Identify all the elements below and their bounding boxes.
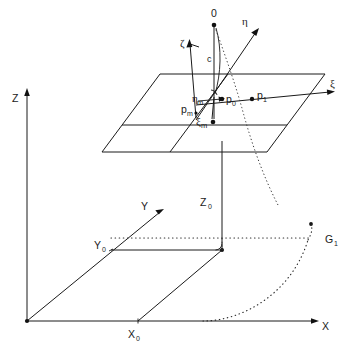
projection-center-dot: [212, 23, 217, 28]
y0-label: Y 0: [94, 239, 106, 253]
svg-text:0: 0: [102, 246, 106, 253]
svg-text:1: 1: [263, 96, 267, 103]
svg-text:m: m: [197, 98, 203, 107]
z-axis-label: Z: [12, 92, 19, 104]
nadir-point-dot: [211, 120, 216, 125]
diagram-canvas: Z Y X X 0 Y 0 Z 0 G 1: [0, 0, 351, 349]
z0-label: Z 0: [200, 196, 212, 210]
x0-label: X 0: [128, 328, 140, 342]
svg-text:X: X: [128, 328, 135, 340]
svg-text:1: 1: [334, 240, 338, 247]
y-axis-label: Y: [141, 200, 148, 212]
point-pm-label: p m: [181, 103, 193, 117]
svg-text:0: 0: [232, 100, 236, 107]
svg-text:G: G: [325, 233, 333, 245]
projective-geometry-figure: Z Y X X 0 Y 0 Z 0 G 1: [0, 0, 351, 349]
g1-label: G 1: [325, 233, 338, 247]
eta-axis-label: η: [242, 15, 248, 27]
figure-labels: Z Y X X 0 Y 0 Z 0 G 1: [12, 7, 338, 342]
point-p0-label: p 0: [226, 93, 236, 107]
projection-ray-dotted: [216, 30, 278, 205]
world-coordinate-system: [24, 88, 319, 324]
z-axis: [24, 88, 30, 321]
x-axis-label: X: [322, 320, 329, 332]
svg-text:Y: Y: [94, 239, 101, 251]
xi-axis-label: ξ: [330, 77, 335, 90]
x-axis: [27, 318, 319, 324]
world-origin-dot: [25, 319, 29, 323]
projection-center-label: 0: [211, 7, 217, 19]
svg-text:0: 0: [208, 203, 212, 210]
zeta-axis-label: ζ: [180, 37, 185, 50]
svg-text:m: m: [187, 110, 193, 117]
point-p1-label: p 1: [257, 89, 267, 103]
eta-m-label: η m: [192, 92, 203, 107]
focal-length-label: c: [207, 54, 212, 64]
svg-text:m: m: [201, 121, 207, 130]
ground-line-x0-to-base: [138, 250, 222, 321]
svg-text:0: 0: [136, 335, 140, 342]
focal-length-bracket: [215, 28, 220, 94]
point-p0-dot: [220, 97, 224, 101]
y-axis: [27, 209, 164, 321]
svg-text:Z: Z: [200, 196, 207, 208]
point-p1-dot: [250, 97, 254, 101]
image-coordinate-system: [186, 23, 335, 205]
xi-m-label: ξ m: [196, 115, 207, 130]
